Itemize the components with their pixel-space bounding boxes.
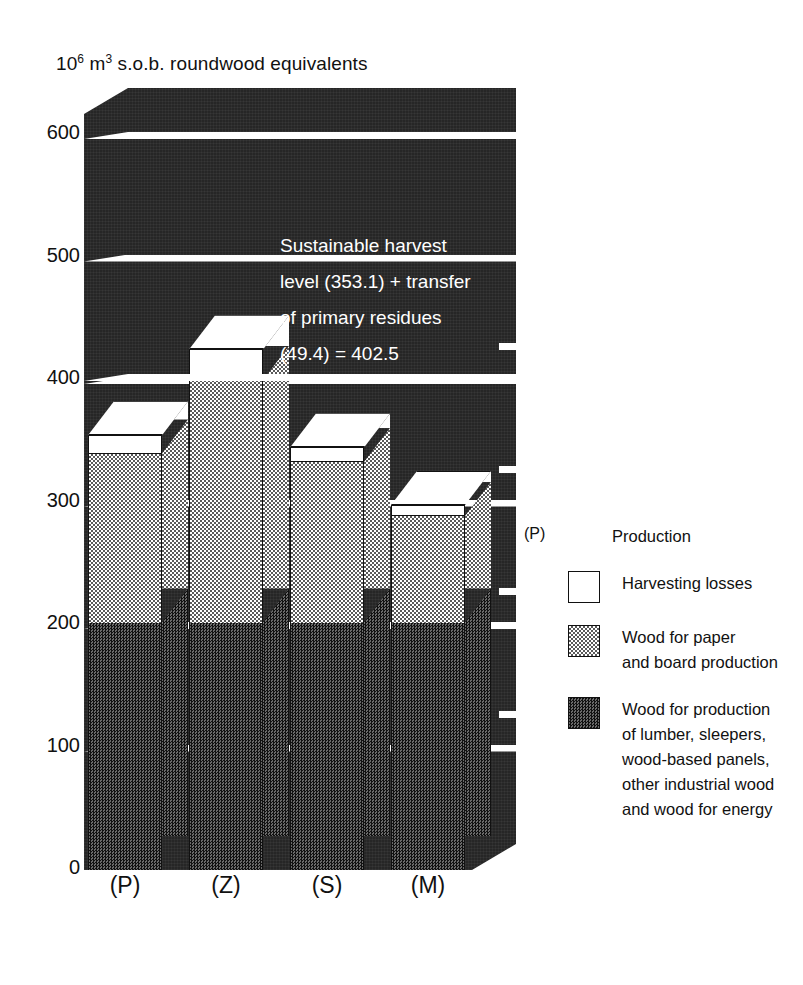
bar-side-face-light — [263, 346, 290, 589]
x-tick-label-S: (S) — [282, 872, 372, 899]
bar-P[interactable] — [88, 88, 188, 870]
legend-spacer — [524, 571, 562, 603]
bar-side-face-dark — [364, 589, 391, 836]
bar-segment-dark — [391, 623, 465, 870]
annotation-line-1: Sustainable harvest — [280, 228, 580, 264]
y-axis-title-rest: s.o.b. roundwood equivalents — [112, 53, 367, 74]
bar-side-face-dark — [465, 589, 492, 836]
legend-swatch-light — [568, 625, 600, 657]
legend-label-line-2: of lumber, sleepers, — [622, 722, 774, 747]
y-tick-label-500: 500 — [22, 244, 80, 267]
bar-top-face — [290, 413, 390, 447]
plot-area: Sustainable harvestlevel (353.1) + trans… — [84, 88, 516, 870]
chart-canvas: 106 m3 s.o.b. roundwood equivalents 0100… — [0, 0, 803, 985]
bar-side-face-light — [364, 428, 391, 588]
right-tick-200 — [499, 588, 516, 595]
y-axis-title-base: 10 — [56, 53, 77, 74]
sustainable-harvest-level-line — [84, 374, 516, 381]
bar-M[interactable] — [391, 88, 491, 870]
legend-row-4[interactable]: Wood for productionof lumber, sleepers,w… — [524, 697, 792, 822]
bar-side-face-dark — [162, 589, 189, 836]
y-tick-label-200: 200 — [22, 611, 80, 634]
legend-row-2[interactable]: Harvesting losses — [524, 571, 792, 603]
legend-spacer — [524, 697, 562, 822]
bar-segment-dark — [290, 623, 364, 870]
x-axis-tick-labels: (P)(Z)(S)(M) — [84, 872, 516, 922]
bar-Z[interactable] — [189, 88, 289, 870]
sustainable-harvest-annotation: Sustainable harvestlevel (353.1) + trans… — [280, 228, 580, 372]
legend-row-3[interactable]: Wood for paperand board production — [524, 625, 792, 675]
legend-label-line-5: and wood for energy — [622, 797, 774, 822]
y-axis-title-mid: m — [84, 53, 105, 74]
legend-label-line-4: other industrial wood — [622, 772, 774, 797]
y-tick-label-600: 600 — [22, 121, 80, 144]
bar-segment-light — [391, 516, 465, 623]
annotation-line-3: of primary residues — [280, 300, 580, 336]
bar-segment-white — [391, 505, 465, 516]
legend-spacer — [524, 625, 562, 675]
legend-label: Wood for paperand board production — [622, 625, 778, 675]
legend-swatch-white — [568, 571, 600, 603]
y-axis-title: 106 m3 s.o.b. roundwood equivalents — [56, 52, 368, 75]
legend-label: Harvesting losses — [622, 571, 752, 603]
x-tick-label-Z: (Z) — [181, 872, 271, 899]
legend-label-line-1: Production — [612, 524, 691, 549]
chart-legend: (P)ProductionHarvesting lossesWood for p… — [524, 524, 792, 844]
bar-top-face — [391, 471, 491, 505]
bar-segment-light — [189, 380, 263, 623]
legend-label: Production — [612, 524, 691, 549]
annotation-line-2: level (353.1) + transfer — [280, 264, 580, 300]
legend-label-line-2: and board production — [622, 650, 778, 675]
x-tick-label-M: (M) — [383, 872, 473, 899]
y-tick-label-0: 0 — [22, 856, 80, 879]
bar-top-face — [88, 401, 188, 435]
right-tick-300 — [499, 466, 516, 473]
legend-row-1[interactable]: (P)Production — [524, 524, 792, 549]
legend-swatch-dark — [568, 697, 600, 729]
legend-label-line-1: Wood for paper — [622, 625, 778, 650]
y-axis-tick-labels: 0100200300400500600 — [18, 88, 80, 870]
legend-key-text: (P) — [524, 524, 584, 549]
legend-label: Wood for productionof lumber, sleepers,w… — [622, 697, 774, 822]
bar-segment-light — [88, 454, 162, 623]
bar-segment-light — [290, 462, 364, 622]
right-tick-400 — [499, 343, 516, 350]
y-tick-label-400: 400 — [22, 366, 80, 389]
bar-segment-dark — [88, 623, 162, 870]
bar-segment-dark — [189, 623, 263, 870]
legend-label-line-1: Wood for production — [622, 697, 774, 722]
right-tick-100 — [499, 711, 516, 718]
annotation-line-4: (49.4) = 402.5 — [280, 336, 580, 372]
bar-segment-white — [88, 435, 162, 453]
bar-side-face-dark — [263, 589, 290, 836]
y-tick-label-300: 300 — [22, 489, 80, 512]
y-tick-label-100: 100 — [22, 734, 80, 757]
legend-label-line-3: wood-based panels, — [622, 747, 774, 772]
x-tick-label-P: (P) — [80, 872, 170, 899]
bar-S[interactable] — [290, 88, 390, 870]
legend-label-line-1: Harvesting losses — [622, 571, 752, 596]
bar-segment-white — [290, 447, 364, 462]
bar-side-face-light — [162, 420, 189, 589]
